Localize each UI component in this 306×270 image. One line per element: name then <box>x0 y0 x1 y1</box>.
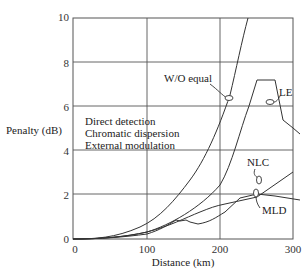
y-tick-4: 4 <box>64 145 70 157</box>
label-nlc: NLC <box>247 156 269 168</box>
penalty-vs-distance-chart: 0 2 4 6 8 10 0 100 200 300 Penalty (dB) … <box>0 0 306 270</box>
label-mld: MLD <box>262 204 287 216</box>
marker-mld <box>254 189 259 197</box>
y-tick-6: 6 <box>64 101 70 113</box>
y-axis-label: Penalty (dB) <box>6 124 62 137</box>
y-tick-0: 0 <box>64 233 70 245</box>
marker-le <box>266 100 274 105</box>
x-tick-300: 300 <box>285 243 302 255</box>
x-tick-200: 200 <box>212 243 229 255</box>
leader-mld <box>256 196 260 208</box>
x-tick-100: 100 <box>139 243 156 255</box>
y-tick-2: 2 <box>64 189 70 201</box>
curve-mld <box>73 194 300 239</box>
leader-wo-equal <box>210 84 227 98</box>
marker-nlc <box>257 176 262 184</box>
annotation-external-modulation: External modulation <box>85 139 176 151</box>
y-tick-10: 10 <box>58 11 70 23</box>
marker-wo-equal <box>225 96 233 101</box>
annotation-chromatic-dispersion: Chromatic dispersion <box>85 127 180 139</box>
label-le: LE <box>279 86 293 98</box>
x-axis-label: Distance (km) <box>152 256 215 269</box>
label-wo-equal: W/O equal <box>164 72 212 84</box>
annotation-direct-detection: Direct detection <box>85 115 156 127</box>
y-tick-8: 8 <box>64 57 70 69</box>
x-axis-ticks: 0 100 200 300 <box>72 243 302 255</box>
x-tick-0: 0 <box>72 243 78 255</box>
